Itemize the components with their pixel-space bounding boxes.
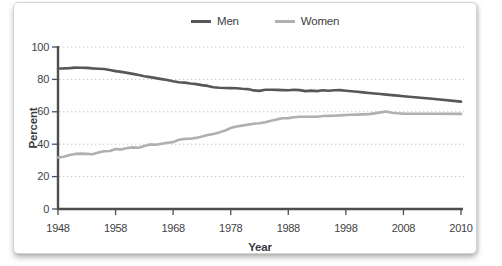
x-tick-label: 2008 xyxy=(392,222,415,234)
x-tick-label: 1958 xyxy=(104,222,127,234)
x-tick-label: 1978 xyxy=(219,222,242,234)
x-tick-label: 1998 xyxy=(334,222,357,234)
x-tick-label: 1988 xyxy=(277,222,300,234)
men-line xyxy=(58,68,461,102)
x-tick-label: 1968 xyxy=(162,222,185,234)
chart-figure: Men Women 020406080100194819581968197819… xyxy=(0,0,502,266)
y-tick-label: 60 xyxy=(37,105,49,117)
y-tick-label: 100 xyxy=(32,41,50,53)
chart-plot: 0204060801001948195819681978198819982008… xyxy=(0,0,502,266)
x-tick-label: 1948 xyxy=(46,222,69,234)
y-tick-label: 40 xyxy=(37,138,49,150)
y-tick-label: 0 xyxy=(43,203,49,215)
x-axis-title: Year xyxy=(248,241,272,253)
y-axis-title: Percent xyxy=(27,108,39,149)
x-tick-label: 2010 xyxy=(449,222,472,234)
y-tick-label: 80 xyxy=(37,73,49,85)
women-line xyxy=(58,112,461,158)
y-tick-label: 20 xyxy=(37,170,49,182)
